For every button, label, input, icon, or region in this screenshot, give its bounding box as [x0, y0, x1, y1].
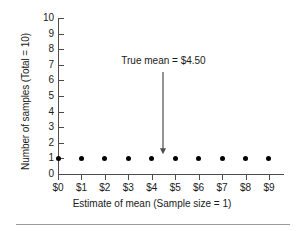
- x-tick-mark: [152, 175, 153, 180]
- chart-figure: Number of samples (Total = 10) 012345678…: [0, 0, 304, 231]
- y-tick-label: 7: [24, 60, 54, 70]
- data-point: [149, 156, 154, 161]
- y-tick-mark: [59, 174, 64, 175]
- x-tick-mark: [128, 175, 129, 180]
- y-tick-label: 9: [24, 29, 54, 39]
- x-tick-mark: [81, 175, 82, 180]
- y-tick-label: 8: [24, 44, 54, 54]
- data-point: [56, 156, 61, 161]
- y-tick-label: 4: [24, 107, 54, 117]
- data-point: [196, 156, 201, 161]
- x-tick-mark: [269, 175, 270, 180]
- data-point: [220, 156, 225, 161]
- data-point: [173, 156, 178, 161]
- x-axis-title: Estimate of mean (Sample size = 1): [0, 198, 304, 209]
- y-tick-label: 0: [24, 169, 54, 179]
- plot-area: 012345678910 $0$1$2$3$4$5$6$7$8$9 True m…: [58, 18, 283, 174]
- x-tick-mark: [58, 175, 59, 180]
- y-tick-mark: [59, 34, 64, 35]
- x-tick-mark: [222, 175, 223, 180]
- data-point: [243, 156, 248, 161]
- x-tick-label: $9: [249, 183, 289, 193]
- y-tick-mark: [59, 127, 64, 128]
- x-axis-line: [58, 174, 284, 175]
- y-tick-mark: [59, 49, 64, 50]
- y-tick-mark: [59, 65, 64, 66]
- y-tick-label: 6: [24, 75, 54, 85]
- y-tick-mark: [59, 143, 64, 144]
- x-tick-mark: [246, 175, 247, 180]
- y-tick-label: 3: [24, 122, 54, 132]
- x-tick-mark: [105, 175, 106, 180]
- bottom-divider: [16, 224, 290, 225]
- data-point: [266, 156, 271, 161]
- x-tick-mark: [175, 175, 176, 180]
- annotation-label: True mean = $4.50: [78, 55, 248, 66]
- x-tick-mark: [199, 175, 200, 180]
- y-tick-mark: [59, 18, 64, 19]
- y-tick-label: 1: [24, 153, 54, 163]
- y-tick-label: 2: [24, 138, 54, 148]
- annotation-arrow-icon: [156, 72, 170, 154]
- y-tick-mark: [59, 112, 64, 113]
- y-tick-label: 5: [24, 91, 54, 101]
- data-point: [102, 156, 107, 161]
- y-tick-label: 10: [24, 13, 54, 23]
- data-point: [79, 156, 84, 161]
- data-point: [126, 156, 131, 161]
- y-tick-mark: [59, 96, 64, 97]
- y-tick-mark: [59, 80, 64, 81]
